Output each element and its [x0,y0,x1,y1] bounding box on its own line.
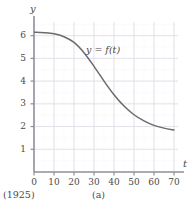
x-tick-label: 40 [105,178,123,187]
axis-lines [34,16,184,172]
y-tick-label: 3 [10,99,26,108]
x-tick-label: 70 [165,178,183,187]
x-tick-label: 50 [125,178,143,187]
y-tick-label: 2 [10,122,26,131]
y-tick-label: 5 [10,54,26,63]
x-tick-label: 20 [65,178,83,187]
y-tick-label: 6 [10,31,26,40]
figure-panel: y t y = f(t) (1925) (a) 010203040506070 … [0,0,195,208]
x-tick-label: 30 [85,178,103,187]
axis-label-y: y [30,4,36,14]
axis-label-x: t [183,159,187,169]
x-tick-label: 10 [45,178,63,187]
x-tick-label: 0 [25,178,43,187]
x-tick-label: 60 [145,178,163,187]
tick-marks [31,36,175,176]
y-tick-label: 1 [10,145,26,154]
origin-year-note: (1925) [3,190,35,200]
y-tick-label: 4 [10,77,26,86]
figure-caption: (a) [92,190,105,200]
curve-label: y = f(t) [86,45,120,55]
